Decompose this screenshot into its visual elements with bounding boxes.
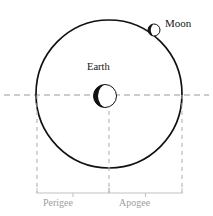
apogee-bracket [109, 188, 182, 197]
moon-icon [148, 24, 160, 36]
moon-label: Moon [165, 18, 191, 29]
earth-icon [94, 85, 117, 108]
diagram-canvas [0, 0, 213, 216]
perigee-bracket [37, 188, 109, 197]
apogee-label: Apogee [119, 198, 150, 208]
lunar-orbit-diagram: Moon Earth Perigee Apogee [0, 0, 213, 216]
earth-label: Earth [87, 62, 110, 73]
perigee-label: Perigee [43, 198, 73, 208]
